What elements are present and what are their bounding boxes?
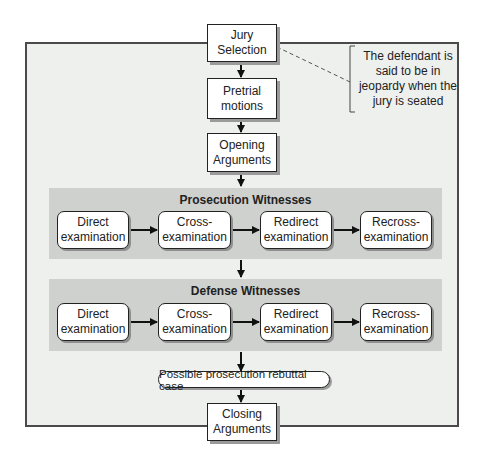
- opening-arguments-step: Opening Arguments: [207, 133, 277, 172]
- defense-direct-examination: Direct examination: [57, 303, 129, 341]
- defense-cross-examination: Cross- examination: [158, 303, 231, 341]
- jury-selection-step: Jury Selection: [207, 24, 277, 62]
- prosecution-recross-examination: Recross- examination: [360, 211, 432, 249]
- prosecution-redirect-examination: Redirect examination: [260, 211, 332, 249]
- defense-witnesses-title: Defense Witnesses: [49, 284, 442, 298]
- prosecution-rebuttal-step: Possible prosecution rebuttal case: [158, 371, 330, 388]
- prosecution-direct-examination: Direct examination: [57, 211, 129, 249]
- jeopardy-note: The defendant is said to be in jeopardy …: [352, 46, 464, 112]
- pretrial-motions-step: Pretrial motions: [207, 78, 277, 119]
- defense-recross-examination: Recross- examination: [360, 303, 432, 341]
- closing-arguments-step: Closing Arguments: [207, 403, 277, 441]
- defense-redirect-examination: Redirect examination: [260, 303, 332, 341]
- prosecution-witnesses-title: Prosecution Witnesses: [49, 193, 442, 207]
- prosecution-cross-examination: Cross- examination: [158, 211, 231, 249]
